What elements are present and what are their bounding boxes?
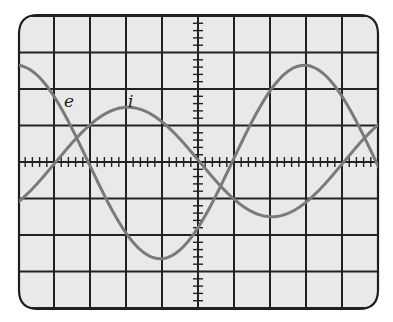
- label-e: e: [64, 91, 74, 111]
- label-i: i: [128, 91, 133, 111]
- oscilloscope-screen: e i: [0, 0, 393, 322]
